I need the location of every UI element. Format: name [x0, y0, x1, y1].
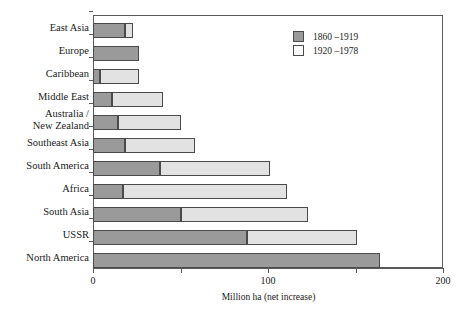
category-label-caribbean: Caribbean — [0, 68, 89, 80]
category-label-south-asia: South Asia — [0, 206, 89, 218]
bar-segment-north-america-1860-1919 — [93, 253, 380, 268]
bar-segment-australia-new-zealand-1860-1919 — [93, 115, 118, 130]
bar-segment-south-america-1860-1919 — [93, 161, 160, 176]
x-tick-0 — [93, 268, 94, 273]
category-label-ussr: USSR — [0, 229, 89, 241]
category-label-south-america: South America — [0, 160, 89, 172]
bar-segment-europe-1860-1919 — [93, 46, 139, 61]
bar-segment-ussr-1860-1919 — [93, 230, 247, 245]
bar-segment-east-asia-1920-1978 — [125, 23, 134, 38]
legend: 1860 –1919 1920 –1978 — [293, 30, 358, 58]
bar-segment-southeast-asia-1860-1919 — [93, 138, 125, 153]
category-label-southeast-asia: Southeast Asia — [0, 137, 89, 149]
bar-row-australia-new-zealand — [93, 115, 443, 138]
legend-entry-1920-1978: 1920 –1978 — [293, 44, 358, 57]
bar-segment-africa-1860-1919 — [93, 184, 123, 199]
bar-segment-africa-1920-1978 — [123, 184, 288, 199]
x-tick-200 — [443, 268, 444, 273]
bar-row-caribbean — [93, 69, 443, 92]
bar-segment-middle-east-1860-1919 — [93, 92, 112, 107]
x-tick-150 — [356, 268, 357, 273]
category-label-australia-nz: Australia / New Zealand — [0, 108, 89, 131]
bar-row-ussr — [93, 230, 443, 253]
bar-segment-south-america-1920-1978 — [160, 161, 270, 176]
bar-row-southeast-asia — [93, 138, 443, 161]
x-tick-100 — [268, 268, 269, 273]
category-label-middle-east: Middle East — [0, 91, 89, 103]
bar-row-south-america — [93, 161, 443, 184]
bar-segment-ussr-1920-1978 — [247, 230, 357, 245]
legend-label-early: 1860 –1919 — [313, 32, 358, 42]
bar-row-south-asia — [93, 207, 443, 230]
x-tick-label-200: 200 — [436, 275, 451, 286]
bar-chart: East Asia Europe Caribbean Middle East A… — [0, 0, 474, 321]
legend-swatch-late-icon — [293, 45, 304, 56]
bar-row-europe — [93, 46, 443, 69]
bar-row-east-asia — [93, 23, 443, 46]
legend-label-late: 1920 –1978 — [313, 46, 358, 56]
x-tick-label-100: 100 — [261, 275, 276, 286]
x-tick-label-0: 0 — [91, 275, 96, 286]
category-label-east-asia: East Asia — [0, 22, 89, 34]
category-label-europe: Europe — [0, 45, 89, 57]
bar-segment-caribbean-1920-1978 — [100, 69, 139, 84]
y-tick-0 — [89, 11, 93, 12]
bar-segment-south-asia-1920-1978 — [181, 207, 309, 222]
bar-segment-southeast-asia-1920-1978 — [125, 138, 195, 153]
bar-segment-caribbean-1860-1919 — [93, 69, 100, 84]
category-label-north-america: North America — [0, 252, 89, 264]
bar-segment-middle-east-1920-1978 — [112, 92, 163, 107]
x-axis-title: Million ha (net increase) — [93, 292, 444, 302]
bar-row-africa — [93, 184, 443, 207]
bar-segment-south-asia-1860-1919 — [93, 207, 181, 222]
category-label-africa: Africa — [0, 183, 89, 195]
category-labels: East Asia Europe Caribbean Middle East A… — [0, 15, 89, 268]
bars-layer — [93, 15, 443, 268]
legend-swatch-early-icon — [293, 31, 304, 42]
bar-segment-east-asia-1860-1919 — [93, 23, 125, 38]
x-tick-50 — [181, 268, 182, 273]
legend-entry-1860-1919: 1860 –1919 — [293, 30, 358, 43]
bar-segment-australia-new-zealand-1920-1978 — [118, 115, 181, 130]
bar-row-middle-east — [93, 92, 443, 115]
